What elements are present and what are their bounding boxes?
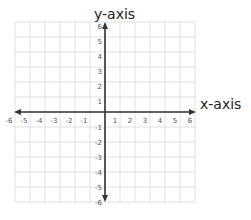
y-tick-label: -4 [95, 169, 103, 177]
y-tick-label: 3 [98, 68, 102, 76]
y-axis-label: y-axis [94, 6, 135, 22]
x-tick-label: -6 [6, 117, 14, 125]
y-tick-label: -5 [95, 184, 102, 192]
y-tick-label: -6 [95, 199, 103, 207]
x-tick-label: -1 [81, 117, 88, 125]
y-tick-label: 1 [98, 98, 102, 106]
x-tick-label: 3 [143, 117, 147, 125]
x-axis-label: x-axis [200, 96, 241, 112]
x-tick-label: 5 [173, 117, 177, 125]
y-tick-label: -3 [95, 154, 102, 162]
x-tick-label: -4 [36, 117, 44, 125]
y-axis-up-arrow-icon [102, 22, 108, 29]
axes [14, 22, 196, 202]
y-tick-label: 6 [98, 23, 103, 31]
x-tick-label: 4 [158, 117, 163, 125]
y-tick-label: -1 [95, 124, 102, 132]
x-tick-label: 1 [113, 117, 117, 125]
coordinate-plane: -6-5-4-3-2-1123456654321-1-2-3-4-5-6 y-a… [0, 0, 251, 220]
x-tick-label: 6 [188, 117, 193, 125]
y-tick-label: 5 [98, 38, 102, 46]
x-tick-label: -5 [21, 117, 28, 125]
x-tick-label: -2 [66, 117, 73, 125]
y-axis-down-arrow-icon [102, 195, 108, 202]
y-tick-label: 2 [98, 83, 102, 91]
x-tick-label: 2 [128, 117, 132, 125]
x-tick-label: -3 [51, 117, 58, 125]
y-tick-label: -2 [95, 139, 102, 147]
y-tick-label: 4 [98, 53, 103, 61]
